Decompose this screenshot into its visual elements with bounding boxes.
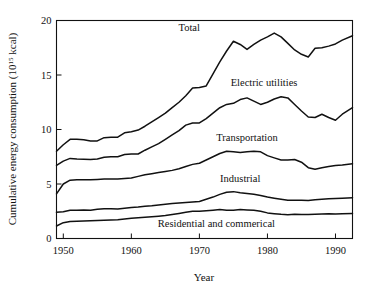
series-line-total xyxy=(57,33,353,151)
x-tick-label: 1990 xyxy=(325,245,346,256)
y-tick-label: 5 xyxy=(46,179,51,190)
y-tick-label: 20 xyxy=(41,15,52,26)
x-axis-ticks: 19501960197019801990 xyxy=(53,234,346,256)
y-tick-label: 15 xyxy=(41,70,52,81)
y-tick-label: 10 xyxy=(41,124,52,135)
x-tick-label: 1970 xyxy=(189,245,210,256)
y-axis-title-group: Cumulative energy consumption (1015 kcal… xyxy=(6,32,19,225)
x-tick-label: 1960 xyxy=(121,245,142,256)
x-tick-label: 1950 xyxy=(53,245,74,256)
series-label-transportation: Transportation xyxy=(216,132,278,143)
series-line-electric-utilities xyxy=(57,97,353,166)
x-tick-label: 1980 xyxy=(257,245,278,256)
chart-svg: 05101520 19501960197019801990 Residentia… xyxy=(0,0,371,289)
series-label-industrial: Industrial xyxy=(220,173,260,184)
data-curves xyxy=(57,33,353,226)
x-axis-title: Year xyxy=(194,271,215,283)
y-axis-title: Cumulative energy consumption (1015 kcal… xyxy=(6,32,19,225)
series-line-industrial xyxy=(57,192,353,213)
series-label-electric-utilities: Electric utilities xyxy=(231,77,298,88)
y-axis-ticks: 05101520 xyxy=(41,15,62,244)
chart-figure: 05101520 19501960197019801990 Residentia… xyxy=(0,0,371,289)
series-label-total: Total xyxy=(178,22,200,33)
plot-frame xyxy=(57,21,353,239)
series-label-residential-and-commerical: Residential and commerical xyxy=(158,218,275,229)
y-tick-label: 0 xyxy=(46,233,51,244)
